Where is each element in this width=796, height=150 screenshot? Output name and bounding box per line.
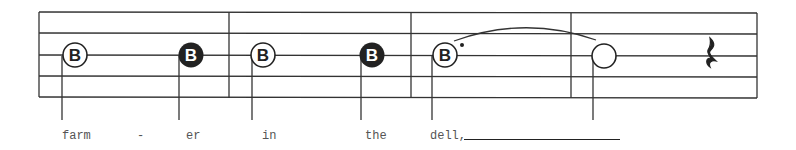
staff-line-3 (39, 55, 757, 56)
svg-text:B: B (439, 46, 451, 65)
lyric-extender-line (464, 139, 620, 140)
staff-line-1 (39, 12, 757, 13)
augmentation-dot (460, 43, 464, 47)
music-staff: B B B B B (0, 0, 796, 150)
lyric-farm: farm (62, 129, 91, 143)
lyric-dell: dell, (430, 129, 466, 143)
note-b-filled: B (179, 43, 204, 68)
svg-text:B: B (185, 46, 197, 65)
note-b-open: B (63, 43, 87, 67)
svg-text:B: B (366, 46, 378, 65)
staff-line-2 (39, 33, 757, 34)
note-b-dotted: B (433, 43, 457, 67)
staff-line-4 (39, 76, 757, 77)
note-b-filled: B (360, 43, 385, 68)
note-open-empty (592, 44, 616, 68)
stems (62, 56, 593, 120)
lyric-in: in (262, 129, 276, 143)
lyric-er: er (186, 129, 200, 143)
staff-line-5 (39, 97, 757, 98)
note-b-open: B (251, 43, 275, 67)
lyric-hyphen: - (137, 129, 144, 143)
quarter-rest-icon (707, 38, 716, 67)
staff-lines (39, 12, 757, 98)
svg-text:B: B (69, 46, 81, 65)
lyric-the: the (365, 129, 387, 143)
svg-text:B: B (257, 46, 269, 65)
